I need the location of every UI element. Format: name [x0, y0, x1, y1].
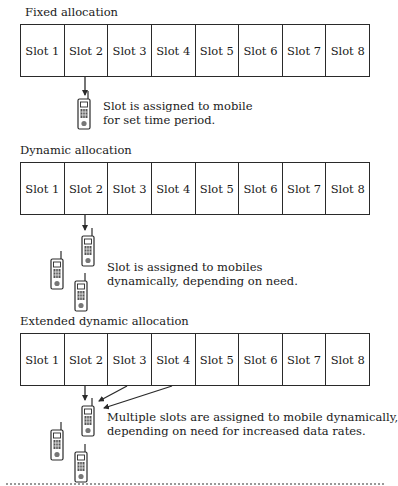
mobile-phone-icon: [75, 273, 87, 311]
mobile-phone-icon: [82, 398, 94, 436]
mobile-phone-icon: [82, 228, 94, 266]
mobile-phone-icon: [78, 91, 90, 129]
mobile-phone-icon: [51, 422, 63, 460]
figure-caption-clipped: [0, 482, 390, 486]
arrow-diagonal-icon: [104, 386, 172, 408]
mobile-phone-icon: [51, 251, 63, 289]
arrow-diagonal-icon: [99, 386, 127, 401]
mobile-phone-icon: [75, 444, 87, 482]
